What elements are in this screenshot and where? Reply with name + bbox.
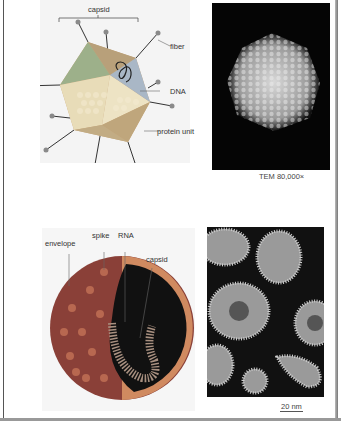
label-dna: DNA xyxy=(170,88,186,96)
enveloped-virus-illustration: envelope spike RNA capsid xyxy=(42,228,195,411)
label-spike: spike xyxy=(92,232,110,240)
icosahedral-virus-illustration: capsid xyxy=(40,0,190,163)
scale-bar: 20 nm xyxy=(280,402,303,412)
label-protein-unit: protein unit xyxy=(157,128,194,136)
micrograph-image-bottom xyxy=(207,227,324,397)
label-rna: RNA xyxy=(118,232,134,240)
tem-micrograph-adenovirus xyxy=(212,3,330,170)
label-envelope: envelope xyxy=(45,240,75,248)
em-micrograph-enveloped-virus xyxy=(207,227,324,397)
micrograph-caption: TEM 80,000× xyxy=(259,172,304,181)
label-capsid: capsid xyxy=(88,6,110,14)
icosahedron-diagram xyxy=(40,0,190,163)
label-fiber: fiber xyxy=(170,43,185,51)
page-edge-left xyxy=(3,0,4,421)
micrograph-image xyxy=(212,3,330,170)
enveloped-virus-diagram xyxy=(42,228,195,411)
label-capsid-bottom: capsid xyxy=(146,256,168,264)
page-edge-right xyxy=(335,0,338,421)
